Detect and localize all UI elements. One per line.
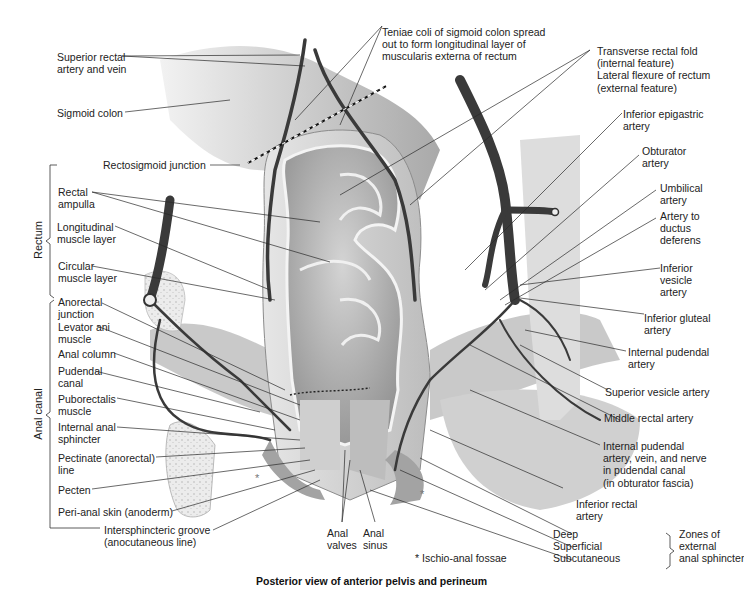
- label-anal-valves: Anal valves: [327, 527, 357, 551]
- label-rectosigmoid-junction: Rectosigmoid junction: [103, 159, 206, 171]
- label-anal-sinus: Anal sinus: [363, 527, 388, 551]
- label-internal-pudendal-canal: Internal pudendal artery, vein, and nerv…: [603, 440, 707, 489]
- label-intersphincteric-groove: Intersphincteric groove (anocutaneous li…: [104, 524, 210, 548]
- label-sigmoid-colon: Sigmoid colon: [57, 107, 123, 119]
- label-obturator-artery: Obturator artery: [642, 145, 686, 169]
- figure-caption: Posterior view of anterior pelvis and pe…: [0, 575, 743, 587]
- label-inferior-vesicle: Inferior vesicle artery: [660, 262, 693, 299]
- label-superior-vesicle: Superior vesicle artery: [605, 386, 709, 398]
- label-superior-rectal: Superior rectal artery and vein: [57, 51, 126, 75]
- svg-text:*: *: [420, 488, 425, 500]
- label-ischio-anal-fossae: * Ischio-anal fossae: [415, 552, 507, 564]
- label-internal-anal-sphincter: Internal anal sphincter: [58, 421, 116, 445]
- label-longitudinal-muscle: Longitudinal muscle layer: [57, 221, 116, 245]
- label-umbilical-artery: Umbilical artery: [660, 182, 703, 206]
- label-internal-pudendal-artery: Internal pudendal artery: [628, 346, 709, 370]
- label-rectal-ampulla: Rectal ampulla: [58, 186, 95, 210]
- label-pectinate-line: Pectinate (anorectal) line: [58, 452, 155, 476]
- label-inferior-rectal: Inferior rectal artery: [576, 498, 637, 522]
- label-levator-ani: Levator ani muscle: [58, 321, 110, 345]
- label-pecten: Pecten: [58, 484, 91, 496]
- label-puborectalis: Puborectalis muscle: [58, 393, 116, 417]
- label-anal-column: Anal column: [58, 348, 116, 360]
- label-zones-list: Deep Superficial Subcutaneous: [553, 528, 620, 565]
- label-middle-rectal: Middle rectal artery: [604, 412, 693, 424]
- group-label-rectum: Rectum: [32, 220, 44, 260]
- label-anorectal-junction: Anorectal junction: [58, 296, 102, 320]
- group-label-anal-canal: Anal canal: [32, 382, 44, 446]
- label-transverse-rectal-fold: Transverse rectal fold (internal feature…: [597, 45, 710, 94]
- label-inferior-epigastric: Inferior epigastric artery: [623, 108, 704, 132]
- label-inferior-gluteal: Inferior gluteal artery: [644, 312, 711, 336]
- label-teniae-coli: Teniae coli of sigmoid colon spread out …: [382, 26, 545, 63]
- label-pudendal-canal: Pudendal canal: [58, 365, 102, 389]
- label-circular-muscle: Circular muscle layer: [58, 260, 117, 284]
- group-label-zones: Zones of external anal sphincter: [679, 528, 744, 565]
- label-peri-anal-skin: Peri-anal skin (anoderm): [58, 506, 173, 518]
- svg-text:*: *: [255, 472, 260, 484]
- label-artery-ductus-deferens: Artery to ductus deferens: [660, 210, 701, 247]
